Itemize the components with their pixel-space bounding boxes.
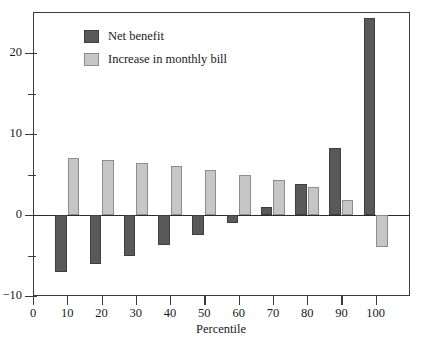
bar-bill-100 [376, 215, 388, 247]
bar-net-60 [227, 215, 239, 223]
bar-chart: −1001020 0102030405060708090100 Percenti… [0, 0, 442, 345]
legend-item-net-benefit: Net benefit [84, 27, 227, 46]
x-tick-10 [67, 296, 68, 305]
bar-bill-30 [136, 163, 148, 215]
x-tick-label-100: 100 [356, 306, 396, 321]
x-axis-title: Percentile [0, 322, 442, 337]
y-tick-20 [25, 53, 37, 54]
legend-label-increase-in-monthly-bill: Increase in monthly bill [108, 52, 227, 67]
y-tick-label-10: 10 [0, 126, 22, 141]
chart-legend: Net benefit Increase in monthly bill [84, 27, 227, 73]
bar-bill-10 [68, 158, 80, 215]
x-tick-30 [136, 296, 137, 305]
bar-bill-50 [205, 170, 217, 215]
bar-net-90 [329, 148, 341, 215]
bar-net-40 [158, 215, 170, 245]
bar-net-50 [192, 215, 204, 235]
bar-net-70 [261, 207, 273, 215]
y-tick-minor--5 [28, 256, 36, 257]
bar-net-80 [295, 184, 307, 215]
y-tick-10 [25, 134, 37, 135]
y-tick-minor-15 [28, 94, 36, 95]
x-tick-70 [273, 296, 274, 305]
legend-label-net-benefit: Net benefit [108, 29, 164, 44]
y-tick-minor-5 [28, 175, 36, 176]
legend-item-increase-in-monthly-bill: Increase in monthly bill [84, 50, 227, 69]
x-tick-100 [376, 296, 377, 305]
bar-net-20 [90, 215, 102, 264]
x-tick-90 [341, 296, 342, 305]
x-tick-60 [239, 296, 240, 305]
bar-bill-20 [102, 160, 114, 215]
bar-bill-70 [273, 180, 285, 215]
x-tick-40 [170, 296, 171, 305]
bar-net-10 [55, 215, 67, 272]
x-tick-0 [33, 296, 34, 305]
x-tick-50 [204, 296, 205, 305]
y-tick-label-20: 20 [0, 45, 22, 60]
x-tick-80 [307, 296, 308, 305]
x-tick-20 [102, 296, 103, 305]
bar-bill-40 [171, 166, 183, 215]
bar-bill-80 [308, 187, 320, 215]
legend-swatch-increase-in-monthly-bill [84, 53, 99, 66]
y-tick-label--10: −10 [0, 288, 22, 303]
y-tick-label-0: 0 [0, 207, 22, 222]
legend-swatch-net-benefit [84, 30, 99, 43]
y-tick--10 [25, 296, 37, 297]
bar-bill-60 [239, 175, 251, 216]
bar-net-100 [364, 18, 376, 215]
bar-net-30 [124, 215, 136, 256]
bar-bill-90 [342, 200, 354, 215]
